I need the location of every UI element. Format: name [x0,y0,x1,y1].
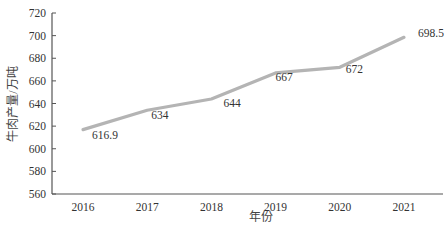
y-axis-title: 牛肉产量/万吨 [5,66,20,141]
data-label: 616.9 [92,129,118,141]
data-label: 672 [346,63,364,75]
data-line [83,37,404,129]
x-axis: 201620172018201920202021 [52,194,443,213]
line-chart: 560580600620640660680700720 201620172018… [0,0,448,242]
y-tick-label: 700 [29,30,47,42]
y-tick-label: 660 [29,75,47,87]
y-tick-label: 560 [29,188,47,200]
data-label: 634 [151,109,169,121]
y-tick-label: 680 [29,52,47,64]
y-tick-label: 580 [29,165,47,177]
data-label: 644 [223,97,241,109]
data-label: 667 [276,71,294,83]
x-tick-label: 2017 [136,201,159,213]
y-tick-label: 720 [29,7,47,19]
y-axis: 560580600620640660680700720 [29,7,56,200]
data-series: 616.9634644667672698.5 [83,27,444,140]
x-tick-label: 2021 [393,201,416,213]
x-axis-title: 年份 [249,210,273,224]
x-tick-label: 2018 [200,201,223,213]
y-tick-label: 600 [29,143,47,155]
data-label: 698.5 [418,27,444,39]
x-tick-label: 2016 [72,201,95,213]
y-tick-label: 640 [29,98,47,110]
x-tick-label: 2020 [328,201,351,213]
y-tick-label: 620 [29,120,47,132]
